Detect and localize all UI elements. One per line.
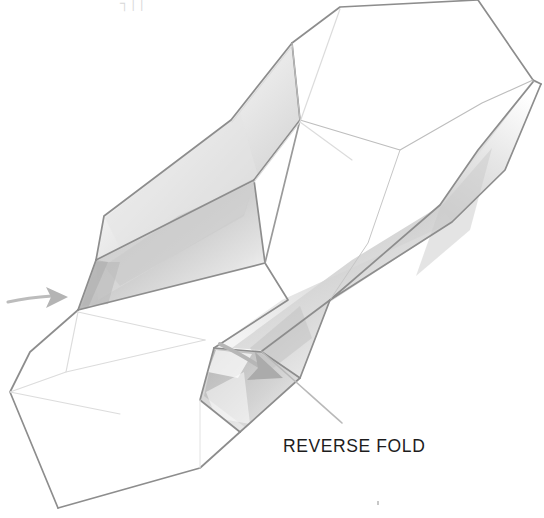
origami-figure xyxy=(0,0,544,518)
illustration-canvas: REVERSE FOLD ┐││ xyxy=(0,0,544,518)
reverse-fold-caption: REVERSE FOLD xyxy=(283,438,425,456)
left-push-arrow xyxy=(8,287,68,308)
clipped-top-text-fragment: ┐││ xyxy=(120,0,147,10)
scan-speck xyxy=(377,501,379,505)
